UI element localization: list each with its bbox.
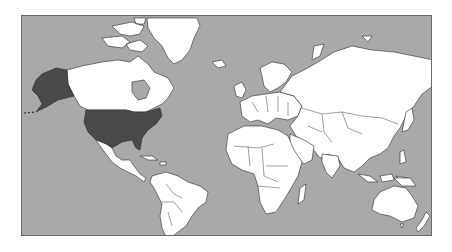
- uk: [234, 82, 246, 98]
- europe: [240, 92, 302, 124]
- map-svg: [22, 16, 432, 236]
- canada: [67, 56, 174, 112]
- cuba: [140, 156, 158, 160]
- india: [322, 154, 340, 178]
- canada-islands: [102, 18, 148, 52]
- south-america: [150, 172, 208, 236]
- new-guinea: [394, 178, 416, 186]
- australia: [372, 186, 418, 222]
- new-zealand: [416, 212, 430, 232]
- iceland: [212, 60, 226, 68]
- greenland: [147, 18, 200, 64]
- madagascar: [298, 184, 306, 204]
- united-states: [84, 108, 162, 150]
- world-map: [21, 15, 432, 236]
